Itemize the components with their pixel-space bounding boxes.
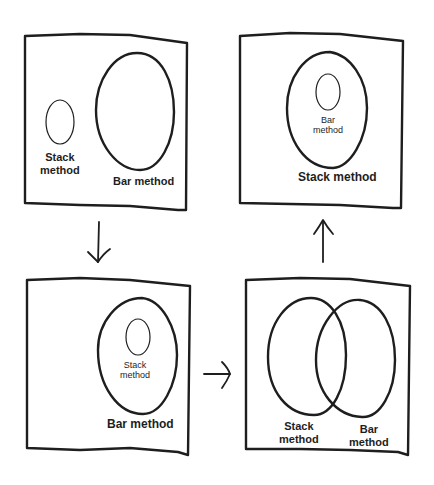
panel-1-stack-set	[46, 100, 74, 144]
label-line: method	[40, 164, 80, 177]
diagram-canvas	[0, 0, 434, 485]
panel-4-bar-set	[316, 300, 395, 417]
panel-4-stack-set	[268, 298, 346, 415]
label-line: method	[349, 436, 389, 449]
panel-2-inner-label: Bar method	[313, 115, 343, 136]
panel-2-inner-set	[316, 74, 340, 110]
panel-3-outer-set	[98, 298, 177, 414]
panel-2-outer-label: Stack method	[298, 171, 377, 185]
label-line: Stack	[120, 360, 150, 370]
panel-1-bar-set	[96, 53, 174, 170]
panel-4-bar-label: Bar method	[349, 423, 389, 448]
label-line: Bar	[349, 423, 389, 436]
label-line: method	[120, 370, 150, 380]
arrow-up-icon	[314, 220, 333, 262]
label-line: Stack	[279, 420, 319, 433]
panel-3-inner-label: Stack method	[120, 360, 150, 381]
label-line: Bar	[313, 115, 343, 125]
arrow-right-icon	[204, 362, 230, 388]
panel-1-stack-label: Stack method	[40, 151, 80, 176]
panel-3-outer-label: Bar method	[107, 418, 174, 432]
panel-4-stack-label: Stack method	[279, 420, 319, 445]
label-line: method	[313, 125, 343, 135]
arrow-down-icon	[88, 222, 110, 262]
panel-1-bar-label: Bar method	[113, 175, 174, 188]
label-line: method	[279, 433, 319, 446]
label-line: Stack	[40, 151, 80, 164]
panel-3-inner-set	[126, 319, 150, 355]
